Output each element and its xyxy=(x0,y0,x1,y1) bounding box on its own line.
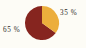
pie-slices xyxy=(25,6,59,40)
pie-chart-figure: 35 % 65 % xyxy=(0,0,86,48)
pie-chart-graphic xyxy=(0,0,86,48)
pie-slice-label-maroon: 65 % xyxy=(3,27,20,34)
pie-slice-label-gold: 35 % xyxy=(60,10,77,17)
